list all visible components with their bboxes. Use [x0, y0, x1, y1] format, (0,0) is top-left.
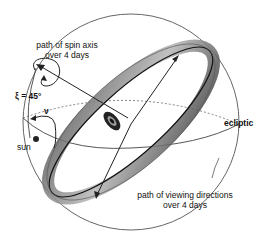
spin-axis-path-label-line2: over 4 days	[22, 50, 112, 60]
ecliptic-back-arc	[23, 100, 239, 124]
spin-axis-path-label-line1: path of spin axis	[22, 40, 112, 50]
spin-axis-path-label: path of spin axis over 4 days	[22, 40, 112, 60]
spacecraft-icon	[100, 109, 123, 134]
sun-icon	[33, 136, 39, 142]
viewing-path-leader	[212, 158, 219, 178]
viewing-path-label: path of viewing directions over 4 days	[120, 190, 250, 210]
viewing-path-label-line2: over 4 days	[120, 200, 250, 210]
nu-arrowhead	[30, 115, 36, 121]
ecliptic-label: ecliptic	[224, 118, 253, 128]
sun-label: sun	[17, 142, 31, 152]
xi-angle-label: ξ = 45°	[15, 91, 41, 101]
viewing-path-label-line1: path of viewing directions	[120, 190, 250, 200]
spin-precession-loop-icon	[34, 58, 60, 86]
nu-angle-arc	[33, 116, 56, 148]
precession-arrowhead	[41, 75, 47, 81]
nu-angle-label: ν	[44, 106, 49, 116]
